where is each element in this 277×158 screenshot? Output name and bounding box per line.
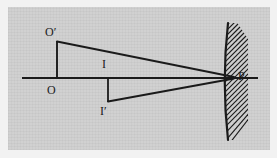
ray-from-O-prime-to-P [57, 42, 234, 78]
label-object-tip: O′ [45, 26, 56, 38]
diagram-vector-layer [0, 0, 277, 158]
label-image-tip: I′ [100, 105, 107, 117]
label-mirror-vertex: P [238, 70, 245, 82]
mirror-back-hatching [214, 18, 250, 148]
concave-mirror-arc [225, 23, 228, 140]
ray-from-P-to-I-prime [108, 79, 234, 102]
mirror-diagram-figure: O′ O I I′ P [0, 0, 277, 158]
label-image-base: I [102, 58, 106, 70]
label-object-base: O [47, 84, 56, 96]
